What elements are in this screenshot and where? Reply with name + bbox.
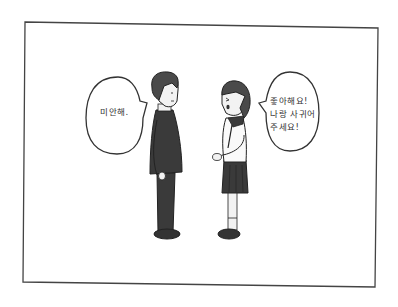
speech-line: 주세요! xyxy=(270,121,316,134)
speech-line: 좋아해요! xyxy=(270,95,316,108)
boy-figure xyxy=(150,72,182,239)
speech-text-boy: 미안해. xyxy=(100,106,129,119)
panel-frame xyxy=(23,22,378,287)
speech-line: 미안해. xyxy=(100,106,129,119)
speech-text-girl: 좋아해요! 나랑 사귀어 주세요! xyxy=(270,95,316,134)
girl-figure xyxy=(213,81,251,239)
comic-panel xyxy=(0,0,398,307)
speech-line: 나랑 사귀어 xyxy=(270,108,316,121)
